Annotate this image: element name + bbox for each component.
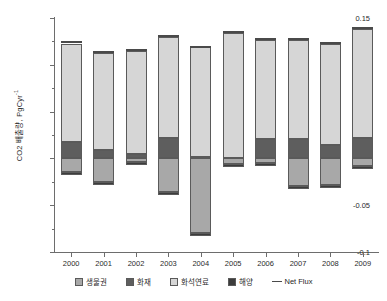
x-tick — [168, 252, 169, 257]
chart-container: CO2 배출량, PgCyr-1 0.150.10.050-0.05-0.120… — [0, 0, 387, 301]
bar-segment-ocean — [255, 163, 276, 166]
bar-segment-fire — [61, 142, 82, 159]
bar-segment-fossil — [255, 40, 276, 139]
bar-group[interactable] — [93, 18, 114, 252]
bar-group[interactable] — [223, 18, 244, 252]
legend-item[interactable]: 화석연료 — [170, 276, 209, 287]
legend-label: 해양 — [239, 276, 253, 287]
plot-area: 0.150.10.050-0.05-0.12000200120022003200… — [55, 18, 379, 252]
bar-segment-fossil — [190, 47, 211, 157]
bar-segment-ocean — [288, 186, 309, 190]
net-flux-line — [255, 38, 276, 40]
x-tick-label: 2000 — [63, 259, 80, 268]
bar-segment-biosphere — [352, 158, 373, 165]
bar-segment-fossil — [61, 44, 82, 141]
legend-label: 화재 — [137, 276, 151, 287]
net-flux-line — [126, 49, 147, 51]
bar-segment-biosphere — [158, 158, 179, 192]
x-tick-label: 2006 — [257, 259, 274, 268]
x-tick-label: 2007 — [290, 259, 307, 268]
bar-group[interactable] — [255, 18, 276, 252]
bar-group[interactable] — [320, 18, 341, 252]
x-tick — [330, 252, 331, 257]
legend-label: Net Flux — [285, 277, 313, 286]
bar-segment-fire — [320, 145, 341, 158]
bar-segment-fire — [288, 139, 309, 159]
x-tick-label: 2004 — [192, 259, 209, 268]
bar-segment-biosphere — [93, 158, 114, 181]
y-tick-minor — [52, 135, 55, 136]
y-tick-major — [50, 18, 55, 19]
bar-segment-fossil — [352, 29, 373, 138]
y-axis-label: CO2 배출량, PgCyr-1 — [13, 56, 24, 196]
y-tick-minor — [52, 88, 55, 89]
bar-segment-ocean — [223, 164, 244, 167]
net-flux-line — [320, 42, 341, 44]
bar-group[interactable] — [190, 18, 211, 252]
x-tick-label: 2005 — [225, 259, 242, 268]
bar-segment-fossil — [158, 37, 179, 138]
bar-segment-ocean — [93, 182, 114, 185]
net-flux-line — [288, 38, 309, 40]
bar-segment-fossil — [93, 53, 114, 150]
x-tick — [363, 252, 364, 257]
x-tick-label: 2008 — [322, 259, 339, 268]
bar-segment-fire — [255, 139, 276, 159]
net-flux-line — [352, 27, 373, 29]
y-tick-major — [50, 112, 55, 113]
legend-line-icon — [272, 281, 282, 282]
bar-group[interactable] — [126, 18, 147, 252]
y-tick-major — [50, 252, 55, 253]
legend-swatch-icon — [170, 278, 178, 286]
bar-segment-biosphere — [320, 158, 341, 184]
legend-item[interactable]: 화재 — [126, 276, 151, 287]
legend-item[interactable]: 생물권 — [75, 276, 107, 287]
x-tick — [233, 252, 234, 257]
x-tick-label: 2003 — [160, 259, 177, 268]
legend-swatch-icon — [126, 278, 134, 286]
x-tick-label: 2009 — [354, 259, 371, 268]
bar-group[interactable] — [158, 18, 179, 252]
bar-segment-ocean — [158, 192, 179, 195]
x-tick — [266, 252, 267, 257]
bar-segment-ocean — [352, 166, 373, 169]
y-tick-major — [50, 158, 55, 159]
legend-label: 화석연료 — [181, 276, 209, 287]
y-tick-minor — [52, 182, 55, 183]
legend-label: 생물권 — [86, 276, 107, 287]
net-flux-line — [223, 31, 244, 33]
y-tick-minor — [52, 229, 55, 230]
net-flux-line — [61, 41, 82, 43]
bar-group[interactable] — [352, 18, 373, 252]
bar-group[interactable] — [61, 18, 82, 252]
y-tick-minor — [52, 41, 55, 42]
net-flux-line — [190, 46, 211, 48]
x-tick — [104, 252, 105, 257]
legend-item[interactable]: 해양 — [228, 276, 253, 287]
x-tick — [71, 252, 72, 257]
legend-swatch-icon — [75, 278, 83, 286]
bar-segment-ocean — [190, 233, 211, 236]
x-tick-label: 2002 — [128, 259, 145, 268]
legend-item[interactable]: Net Flux — [272, 277, 313, 286]
net-flux-line — [93, 51, 114, 53]
bar-segment-ocean — [61, 172, 82, 175]
bar-segment-fire — [158, 138, 179, 159]
x-tick-label: 2001 — [95, 259, 112, 268]
bar-segment-fire — [93, 150, 114, 158]
bar-segment-fossil — [288, 40, 309, 139]
bar-segment-biosphere — [288, 158, 309, 185]
bar-segment-fire — [352, 138, 373, 159]
bar-group[interactable] — [288, 18, 309, 252]
bar-segment-fossil — [320, 44, 341, 145]
chart-legend: 생물권화재화석연료해양Net Flux — [0, 276, 387, 287]
bar-segment-biosphere — [190, 158, 211, 233]
y-tick-major — [50, 205, 55, 206]
net-flux-line — [158, 35, 179, 37]
bar-segment-biosphere — [61, 158, 82, 172]
bar-segment-fossil — [126, 51, 147, 154]
bar-segment-ocean — [320, 185, 341, 189]
y-tick-major — [50, 65, 55, 66]
legend-swatch-icon — [228, 278, 236, 286]
bar-segment-ocean — [126, 162, 147, 165]
